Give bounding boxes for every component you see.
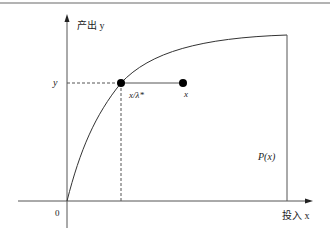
- x-axis-label: 投入 x: [282, 211, 310, 221]
- x-axis-arrow-icon: [305, 199, 313, 204]
- input-point-dot: [179, 79, 187, 87]
- y-axis-arrow-icon: [65, 14, 70, 22]
- frontier-label: P(x): [258, 152, 275, 162]
- y-axis-label: 产出 y: [77, 21, 105, 31]
- production-curve: [67, 35, 287, 201]
- projected-point-dot: [117, 79, 125, 87]
- origin-label: 0: [55, 209, 60, 218]
- projection-point-label: x/λ*: [129, 91, 144, 100]
- input-point-label: x: [184, 90, 188, 99]
- production-frontier-diagram: [0, 0, 330, 237]
- y-tick-label: y: [53, 78, 57, 88]
